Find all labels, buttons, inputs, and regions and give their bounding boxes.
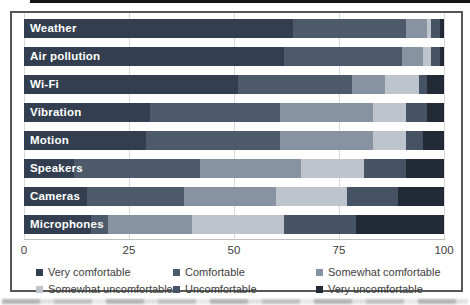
- legend-item: Uncomfortable: [173, 283, 257, 295]
- bottom-crop-artifact: [2, 299, 468, 304]
- bar-segment: [352, 75, 386, 94]
- bar-segment: [423, 47, 431, 66]
- bar-category-label: Cameras: [30, 190, 80, 203]
- bar-segment: [385, 75, 419, 94]
- bar-segment: [347, 187, 397, 206]
- legend-item: Comfortable: [173, 266, 245, 278]
- x-tick-label: 75: [333, 244, 346, 256]
- bar-segment: [150, 103, 280, 122]
- bar-segment: [364, 159, 406, 178]
- bar-segment: [406, 159, 444, 178]
- bar-category-label: Vibration: [30, 106, 81, 119]
- bar-segment: [184, 187, 276, 206]
- bar-segment: [74, 159, 200, 178]
- bar-segment: [402, 47, 423, 66]
- bar-segment: [427, 75, 444, 94]
- bar-segment: [398, 187, 444, 206]
- legend-label: Uncomfortable: [185, 283, 257, 295]
- legend-label: Somewhat comfortable: [328, 266, 441, 278]
- legend-label: Somewhat uncomfortable: [48, 283, 173, 295]
- x-axis-line: [24, 239, 445, 240]
- legend-swatch-icon: [36, 286, 43, 293]
- bar-segment: [440, 47, 444, 66]
- legend-swatch-icon: [36, 269, 43, 276]
- bar-category-label: Microphones: [30, 218, 104, 231]
- bar-segment: [373, 103, 407, 122]
- bar-segment: [146, 131, 280, 150]
- legend-item: Somewhat uncomfortable: [36, 283, 173, 295]
- legend-label: Comfortable: [185, 266, 245, 278]
- legend-swatch-icon: [173, 286, 180, 293]
- bar-segment: [280, 131, 372, 150]
- legend-item: Somewhat comfortable: [316, 266, 441, 278]
- bar-segment: [280, 103, 372, 122]
- legend-swatch-icon: [173, 269, 180, 276]
- bar-category-label: Wi-Fi: [30, 78, 59, 91]
- chart-canvas: WeatherAir pollutionWi-FiVibrationMotion…: [0, 0, 470, 305]
- bar-segment: [419, 75, 427, 94]
- bar-category-label: Speakers: [30, 162, 83, 175]
- bar-segment: [192, 215, 284, 234]
- legend-label: Very comfortable: [48, 266, 131, 278]
- bar-segment: [276, 187, 347, 206]
- x-tick-label: 25: [123, 244, 136, 256]
- top-crop-artifact: [30, 0, 470, 3]
- bar-segment: [108, 215, 192, 234]
- bar-category-label: Motion: [30, 134, 69, 147]
- bar-segment: [440, 19, 444, 38]
- x-tick-label: 100: [434, 244, 453, 256]
- bar-segment: [200, 159, 301, 178]
- bar-segment: [356, 215, 444, 234]
- legend-swatch-icon: [316, 286, 323, 293]
- bar-segment: [87, 187, 184, 206]
- bar-segment: [293, 19, 406, 38]
- bar-segment: [431, 47, 439, 66]
- legend-swatch-icon: [316, 269, 323, 276]
- bar-segment: [406, 103, 427, 122]
- bar-segment: [238, 75, 351, 94]
- x-tick-label: 50: [228, 244, 241, 256]
- x-tick-label: 0: [21, 244, 27, 256]
- bar-segment: [431, 19, 439, 38]
- bar-segment: [284, 215, 355, 234]
- bar-segment: [406, 19, 427, 38]
- bar-segment: [284, 47, 402, 66]
- legend-item: Very comfortable: [36, 266, 131, 278]
- bar-category-label: Air pollution: [30, 50, 100, 63]
- gridline-100: [444, 13, 445, 240]
- legend-label: Very uncomfortable: [328, 283, 423, 295]
- bar-segment: [427, 103, 444, 122]
- bar-segment: [301, 159, 364, 178]
- legend-item: Very uncomfortable: [316, 283, 423, 295]
- bar-segment: [423, 131, 444, 150]
- bar-segment: [406, 131, 423, 150]
- bar-category-label: Weather: [30, 22, 77, 35]
- bar-segment: [373, 131, 407, 150]
